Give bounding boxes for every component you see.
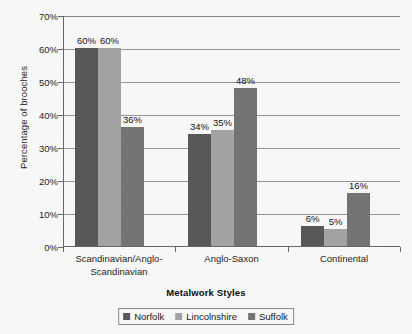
bar-value-label: 16% <box>349 180 368 191</box>
legend-item-norfolk[interactable]: Norfolk <box>123 311 164 322</box>
bar-value-label: 36% <box>123 114 142 125</box>
bar-suffolk-scandinavian <box>121 127 144 246</box>
bar-suffolk-anglosaxon <box>234 88 257 246</box>
x-category-label-continental: Continental <box>288 253 400 266</box>
bar-norfolk-scandinavian <box>75 48 98 246</box>
x-tick-mark <box>400 247 401 252</box>
bar-value-label: 60% <box>100 35 119 46</box>
legend-item-lincolnshire[interactable]: Lincolnshire <box>175 311 237 322</box>
legend-swatch-icon <box>248 313 255 320</box>
y-tick-label: 20% <box>20 176 58 187</box>
bar-value-label: 48% <box>236 75 255 86</box>
legend-swatch-icon <box>123 313 130 320</box>
bar-lincolnshire-continental <box>324 229 347 246</box>
legend-label: Norfolk <box>134 311 164 322</box>
chart-legend: Norfolk Lincolnshire Suffolk <box>118 308 294 325</box>
bar-value-label: 6% <box>306 213 320 224</box>
legend-label: Suffolk <box>259 311 288 322</box>
legend-label: Lincolnshire <box>186 311 237 322</box>
x-tick-mark <box>63 247 64 252</box>
bar-value-label: 34% <box>190 121 209 132</box>
y-tick-label: 70% <box>20 11 58 22</box>
y-tick-label: 60% <box>20 44 58 55</box>
bar-lincolnshire-anglosaxon <box>211 130 234 246</box>
gridline <box>64 16 400 17</box>
y-tick-label: 0% <box>20 242 58 253</box>
y-tick-label: 40% <box>20 110 58 121</box>
y-tick-label: 30% <box>20 143 58 154</box>
bar-lincolnshire-scandinavian <box>98 48 121 246</box>
x-category-line: Anglo-Saxon <box>175 253 288 266</box>
bar-value-label: 5% <box>329 216 343 227</box>
x-axis-title: Metalwork Styles <box>0 287 412 298</box>
x-category-line: Continental <box>288 253 400 266</box>
x-category-label-anglosaxon: Anglo-Saxon <box>175 253 288 266</box>
bar-norfolk-continental <box>301 226 324 246</box>
bar-suffolk-continental <box>347 193 370 246</box>
bar-value-label: 35% <box>213 117 232 128</box>
x-category-line: Scandinavian <box>63 266 175 279</box>
bar-value-label: 60% <box>77 35 96 46</box>
x-category-line: Scandinavian/Anglo- <box>63 253 175 266</box>
y-tick-label: 50% <box>20 77 58 88</box>
legend-item-suffolk[interactable]: Suffolk <box>248 311 288 322</box>
x-category-label-scandinavian: Scandinavian/Anglo- Scandinavian <box>63 253 175 278</box>
y-tick-label: 10% <box>20 209 58 220</box>
x-tick-mark <box>288 247 289 252</box>
x-tick-mark <box>175 247 176 252</box>
plot-area: 60% 60% 36% 34% 35% 48% 6% 5% 16% <box>63 16 400 247</box>
bar-norfolk-anglosaxon <box>188 134 211 246</box>
bar-chart: Percentage of brooches 70% 60% 50% 40% 3… <box>0 0 412 334</box>
legend-swatch-icon <box>175 313 182 320</box>
